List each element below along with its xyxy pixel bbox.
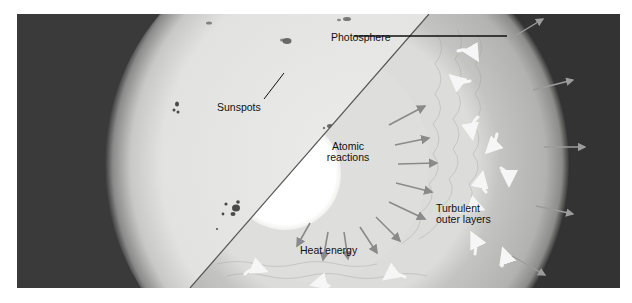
photosphere-label: Photosphere (331, 32, 391, 43)
atomic-reactions-label: Atomic reactions (320, 141, 376, 163)
turbulent-outer-layers-label: Turbulent outer layers (436, 203, 491, 225)
sunspots-label: Sunspots (217, 102, 261, 113)
heat-energy-label: Heat energy (300, 245, 357, 256)
sun-diagram-frame: Photosphere Sunspots Atomic reactions Tu… (17, 14, 620, 288)
turbulent-line2: outer layers (436, 214, 491, 225)
atomic-reactions-line2: reactions (320, 152, 376, 163)
